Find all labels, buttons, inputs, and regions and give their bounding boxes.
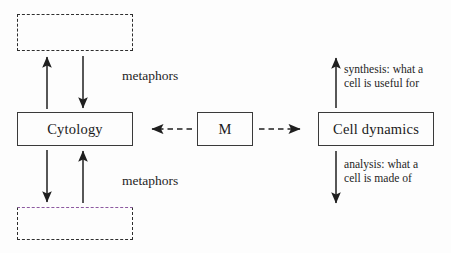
node-cytology-label: Cytology [47, 122, 103, 137]
edge-label-analysis-note: analysis: what a cell is made of [344, 158, 451, 186]
node-top-placeholder[interactable] [17, 14, 133, 51]
node-m[interactable]: M [197, 112, 253, 146]
diagram-canvas: Cytology M Cell dynamics metaphors metap… [0, 0, 451, 253]
node-cell-dynamics[interactable]: Cell dynamics [318, 112, 434, 146]
node-bottom-placeholder[interactable] [17, 207, 133, 240]
edge-label-synthesis-note: synthesis: what a cell is useful for [344, 63, 451, 91]
node-cytology[interactable]: Cytology [17, 112, 133, 146]
edge-label-metaphors-lower: metaphors [122, 173, 178, 189]
edge-label-metaphors-upper: metaphors [122, 68, 178, 84]
node-cell-dynamics-label: Cell dynamics [333, 122, 419, 137]
node-m-label: M [218, 122, 231, 137]
